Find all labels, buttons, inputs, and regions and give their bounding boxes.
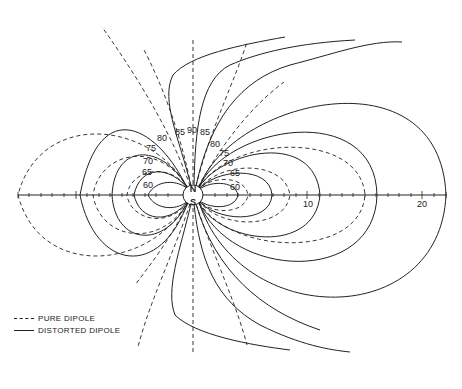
axis-label-10: 10 <box>303 199 313 209</box>
svg-text:75: 75 <box>146 143 156 153</box>
svg-text:70: 70 <box>223 158 233 168</box>
svg-text:60: 60 <box>143 180 153 190</box>
dipole-diagram: N S 80 75 70 65 60 85 90 85 80 75 70 65 … <box>0 0 462 389</box>
svg-text:85: 85 <box>175 127 185 137</box>
south-pole-label: S <box>190 197 196 207</box>
svg-text:75: 75 <box>219 148 229 158</box>
svg-text:65: 65 <box>230 168 240 178</box>
svg-text:85: 85 <box>200 127 210 137</box>
svg-text:70: 70 <box>143 156 153 166</box>
legend-distorted-dipole: DISTORTED DIPOLE <box>14 326 120 335</box>
north-pole-label: N <box>190 184 197 194</box>
legend-pure-dipole: PURE DIPOLE <box>14 314 95 323</box>
svg-text:80: 80 <box>157 133 167 143</box>
axis-label-20: 20 <box>417 199 427 209</box>
svg-text:90: 90 <box>187 125 197 135</box>
solid-line-swatch <box>14 330 34 331</box>
latitude-labels: 80 75 70 65 60 85 90 85 80 75 70 65 60 <box>142 125 240 192</box>
svg-text:60: 60 <box>230 182 240 192</box>
dashed-line-swatch <box>14 318 34 319</box>
svg-text:65: 65 <box>142 167 152 177</box>
